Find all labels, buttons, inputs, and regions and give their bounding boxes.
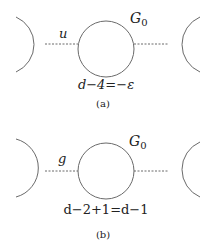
equation-label: d−2+1=d−1 — [63, 202, 148, 217]
right-partial-blob — [182, 17, 200, 72]
panel-caption: (b) — [96, 229, 110, 240]
central-node-circle — [78, 143, 134, 199]
left-partial-blob — [16, 139, 38, 197]
panel-a: u G0 d−4=−ε (a) — [16, 10, 200, 109]
left-partial-blob — [16, 17, 34, 72]
central-node-circle — [78, 21, 134, 77]
right-partial-blob — [182, 142, 200, 197]
node-label: G0 — [130, 10, 148, 28]
edge-label: g — [58, 151, 66, 166]
node-label: G0 — [129, 133, 147, 151]
diagram: u G0 d−4=−ε (a) g G0 d−2+1=d−1 (b) — [0, 0, 208, 251]
equation-label: d−4=−ε — [78, 77, 134, 92]
edge-label: u — [59, 26, 67, 41]
panel-caption: (a) — [96, 98, 110, 109]
panel-b: g G0 d−2+1=d−1 (b) — [16, 133, 200, 240]
